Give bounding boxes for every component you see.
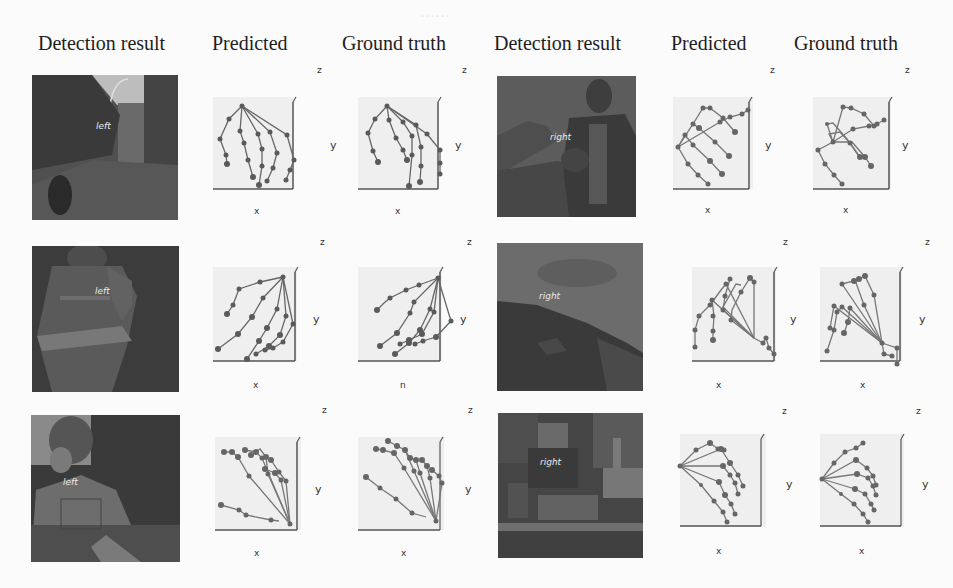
axis-label-x: x [254,206,259,216]
axis-label-x: x [705,205,710,215]
axis-label-z: z [320,237,325,247]
axis-label-z: z [782,406,787,416]
hand-label-r2-left: left [95,286,110,296]
axis-label-y: y [790,313,797,326]
hand-label-r3-right: right [540,457,561,467]
predicted-pose-plot-r2-left: z y x [205,230,345,395]
axis-label-x: x [716,546,721,556]
axis-label-x: x [254,548,259,558]
predicted-pose-plot-r1-left: z y x [205,62,345,222]
axis-label-z: z [905,65,910,75]
header-detection-result-right: Detection result [494,32,621,55]
ground-truth-pose-plot-r1-left: z y x [350,62,490,222]
header-ground-truth-right: Ground truth [794,32,898,55]
header-predicted-right: Predicted [671,32,747,55]
bleed-through-text: …… [420,4,450,21]
header-detection-result-left: Detection result [38,32,165,55]
predicted-pose-plot-r3-left: z y x [205,400,345,565]
axis-label-z: z [317,65,322,75]
ground-truth-pose-plot-r3-right: z y x [812,400,952,565]
axis-label-z: z [467,237,472,247]
axis-label-z: z [916,406,921,416]
ground-truth-pose-plot-r2-right: z y x [812,230,952,395]
axis-label-z: z [322,405,327,415]
axis-label-x: x [395,206,400,216]
hand-label-r3-left: left [63,477,78,487]
axis-label-y: y [765,139,772,152]
axis-label-y: y [902,139,909,152]
axis-label-x: x [401,548,406,558]
axis-label-y: y [919,313,926,326]
predicted-pose-plot-r2-right: z y x [670,230,810,395]
hand-label-r1-left: left [96,121,111,131]
axis-label-x-alt: n [400,380,406,390]
hand-label-r1-right: right [550,132,571,142]
axis-label-y: y [313,313,320,326]
ground-truth-pose-plot-r2-left: z y n [350,230,490,395]
axis-label-y: y [460,313,467,326]
axis-label-z: z [925,237,930,247]
detection-photo-r2-right: right [497,243,643,391]
predicted-pose-plot-r1-right: z y x [665,62,805,222]
axis-label-z: z [462,65,467,75]
header-predicted-left: Predicted [212,32,288,55]
detection-photo-r3-left: left [31,415,180,562]
axis-label-y: y [330,139,337,152]
axis-label-x: x [253,380,258,390]
axis-label-z: z [468,405,473,415]
ground-truth-pose-plot-r1-right: z y x [805,62,945,222]
axis-label-x: x [716,380,721,390]
ground-truth-pose-plot-r3-left: z y x [350,400,490,565]
detection-photo-r3-right: right [498,413,643,558]
axis-label-x: x [843,205,848,215]
axis-label-z: z [783,237,788,247]
axis-label-x: x [859,546,864,556]
axis-label-y: y [315,483,322,496]
axis-label-z: z [770,65,775,75]
axis-label-y: y [465,483,472,496]
detection-photo-r1-left: left [32,75,178,220]
detection-photo-r1-right: right [497,76,636,217]
axis-label-x: x [860,380,865,390]
axis-label-y: y [922,478,929,491]
axis-label-y: y [786,478,793,491]
axis-label-y: y [455,139,462,152]
hand-label-r2-right: right [539,291,560,301]
detection-photo-r2-left: left [32,246,179,392]
header-ground-truth-left: Ground truth [342,32,446,55]
predicted-pose-plot-r3-right: z y x [668,400,808,565]
